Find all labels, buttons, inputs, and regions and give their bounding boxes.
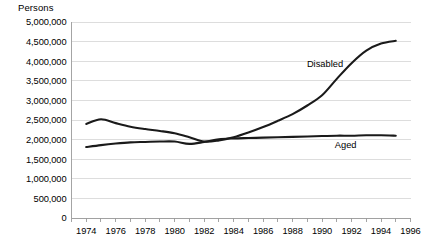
y-axis-tick-labels: 0500,0001,000,0001,500,0002,000,0002,500… bbox=[26, 17, 66, 223]
line-chart-plot: 0500,0001,000,0001,500,0002,000,0002,500… bbox=[0, 0, 421, 252]
x-axis-tick-label: 1990 bbox=[312, 226, 332, 236]
x-axis-tick-label: 1974 bbox=[76, 226, 96, 236]
y-axis-tick-label: 4,000,000 bbox=[26, 57, 66, 67]
series-label-aged: Aged bbox=[335, 140, 357, 150]
x-axis-tick-labels: 1974197619781980198219841986198819901992… bbox=[76, 226, 421, 236]
y-axis-tick-label: 0 bbox=[61, 213, 66, 223]
y-axis-tick-label: 1,000,000 bbox=[26, 174, 66, 184]
x-axis-tick-marks bbox=[72, 218, 411, 222]
x-axis-tick-label: 1976 bbox=[106, 226, 126, 236]
y-axis-tick-label: 500,000 bbox=[34, 194, 67, 204]
y-axis-tick-label: 4,500,000 bbox=[26, 37, 66, 47]
x-axis-tick-label: 1992 bbox=[341, 226, 361, 236]
x-axis-tick-label: 1984 bbox=[223, 226, 243, 236]
y-axis-tick-label: 5,000,000 bbox=[26, 17, 66, 27]
x-axis-tick-label: 1980 bbox=[165, 226, 185, 236]
x-axis-tick-label: 1996 bbox=[400, 226, 420, 236]
x-axis-tick-label: 1982 bbox=[194, 226, 214, 236]
series-line-disabled bbox=[86, 41, 396, 142]
y-axis-tick-label: 3,000,000 bbox=[26, 96, 66, 106]
y-axis-tick-label: 1,500,000 bbox=[26, 155, 66, 165]
x-axis-tick-label: 1988 bbox=[282, 226, 302, 236]
y-axis-tick-label: 2,000,000 bbox=[26, 135, 66, 145]
chart-container: Persons 0500,0001,000,0001,500,0002,000,… bbox=[0, 0, 421, 252]
gridlines bbox=[72, 22, 411, 218]
x-axis-tick-label: 1978 bbox=[135, 226, 155, 236]
y-axis-tick-label: 2,500,000 bbox=[26, 115, 66, 125]
series-label-disabled: Disabled bbox=[307, 59, 343, 69]
x-axis-tick-label: 1986 bbox=[253, 226, 273, 236]
y-axis-tick-label: 3,500,000 bbox=[26, 76, 66, 86]
data-series bbox=[86, 41, 396, 147]
x-axis-tick-label: 1994 bbox=[371, 226, 391, 236]
